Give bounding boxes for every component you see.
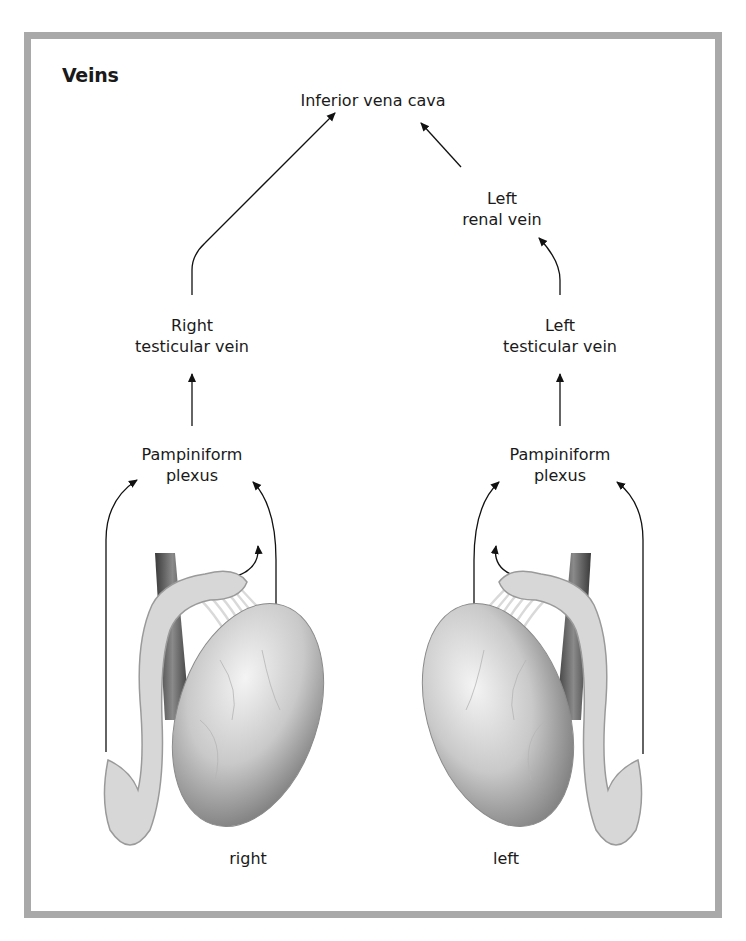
arrow-right-inner: [253, 482, 276, 612]
arrow-left-outer: [617, 482, 643, 754]
arrow-left-renal-to-ivc: [421, 123, 461, 167]
left-testis-illustration: [396, 553, 642, 846]
arrow-right-testicular-to-ivc: [192, 113, 335, 295]
diagram-graphics: [0, 0, 746, 941]
right-testis-illustration: [104, 553, 350, 846]
arrow-left-testicular-to-renal: [539, 238, 560, 295]
arrow-right-small: [233, 546, 258, 577]
arrow-right-outer: [106, 480, 137, 752]
